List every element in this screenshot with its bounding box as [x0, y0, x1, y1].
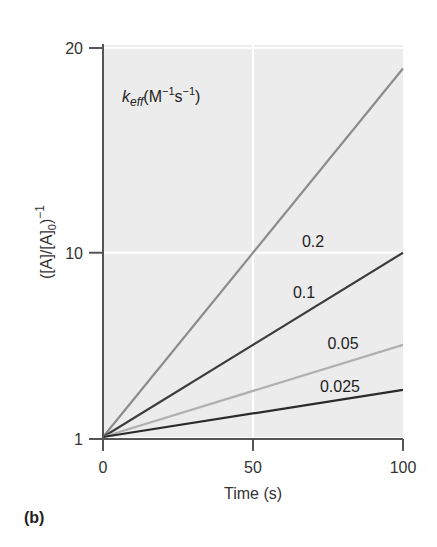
y-tick-label: 20: [65, 40, 83, 57]
x-tick-label: 0: [99, 459, 108, 476]
series-label-0.1: 0.1: [293, 284, 315, 301]
x-axis-title: Time (s): [224, 485, 282, 502]
y-axis-title: ([A]/[A]0)−1: [33, 205, 58, 279]
x-tick-label: 50: [244, 459, 262, 476]
panel-label: (b): [24, 509, 44, 527]
series-label-0.025: 0.025: [320, 378, 360, 395]
series-label-0.2: 0.2: [302, 233, 324, 250]
y-tick-label: 10: [65, 245, 83, 262]
chart: 0.20.10.050.025 05010011020 keff(M−1s−1)…: [0, 0, 437, 547]
series-label-0.05: 0.05: [327, 335, 358, 352]
x-tick-label: 100: [390, 459, 417, 476]
y-tick-label: 1: [74, 431, 83, 448]
